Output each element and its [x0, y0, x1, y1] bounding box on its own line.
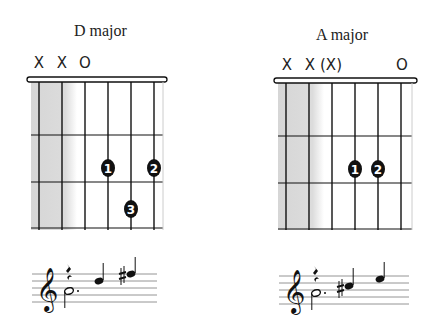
fretboard-d-major: 1 2 3 — [27, 77, 167, 230]
fretboard-a-major: 1 2 — [274, 78, 417, 230]
sharp-icon — [337, 279, 344, 298]
nut — [274, 78, 417, 83]
finger-dot-3: 3 — [124, 200, 138, 218]
staff-d-major: 𝄞 — [32, 257, 157, 313]
finger-dot-2: 2 — [371, 160, 385, 178]
staff-a-major: 𝄞 — [279, 262, 409, 315]
svg-text:2: 2 — [374, 163, 382, 177]
nut — [27, 77, 167, 82]
chord-diagrams: 1 2 3 1 — [0, 0, 434, 335]
quarter-rest-icon — [66, 264, 72, 280]
quarter-rest-icon — [313, 266, 319, 282]
svg-text:1: 1 — [104, 162, 112, 176]
treble-clef-icon: 𝄞 — [283, 269, 305, 315]
finger-dot-1: 1 — [101, 159, 115, 177]
finger-dot-1: 1 — [348, 160, 362, 178]
sharp-icon — [119, 266, 126, 285]
shaded-region — [31, 82, 77, 230]
treble-clef-icon: 𝄞 — [36, 267, 58, 313]
shaded-region — [278, 83, 324, 230]
finger-dot-2: 2 — [147, 159, 161, 177]
svg-text:1: 1 — [351, 163, 359, 177]
svg-text:3: 3 — [127, 203, 135, 217]
svg-text:2: 2 — [150, 162, 158, 176]
